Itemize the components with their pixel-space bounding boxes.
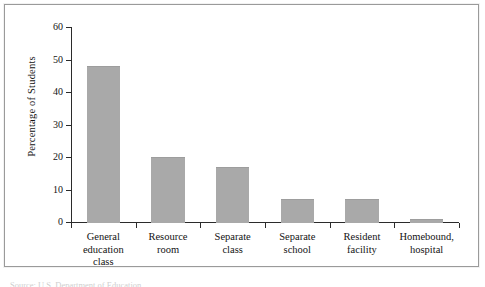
x-axis-category-label-line: facility <box>326 244 399 257</box>
x-axis-tick <box>459 223 460 228</box>
bar <box>216 167 250 223</box>
y-axis-tick-label: 60 <box>35 21 63 32</box>
bar <box>281 199 315 223</box>
y-axis-tick-label: 10 <box>35 184 63 195</box>
x-axis-category-label: Separateschool <box>261 231 334 256</box>
bar-chart-plot-area: Percentage of Students 0102030405060 Gen… <box>5 5 478 266</box>
x-axis-category-label-line: Separate <box>261 231 334 244</box>
x-axis-tick <box>200 223 201 228</box>
y-axis-tick-label: 20 <box>35 151 63 162</box>
x-axis-category-label-line: Resource <box>132 231 205 244</box>
x-axis-category-label-line: school <box>261 244 334 257</box>
bar <box>151 157 185 223</box>
x-axis-tick <box>71 223 72 228</box>
y-axis-tick <box>66 125 72 126</box>
x-axis-category-label-line: Homebound, <box>390 231 463 244</box>
x-axis-tick <box>330 223 331 228</box>
x-axis-tick <box>394 223 395 228</box>
x-axis-category-label-line: class <box>67 256 140 269</box>
y-axis-tick <box>66 157 72 158</box>
figure-frame: Percentage of Students 0102030405060 Gen… <box>4 4 479 267</box>
x-axis-tick <box>136 223 137 228</box>
x-axis-category-label: Residentfacility <box>326 231 399 256</box>
x-axis-category-label-line: Resident <box>326 231 399 244</box>
y-axis-tick <box>66 60 72 61</box>
y-axis-tick <box>66 190 72 191</box>
x-axis-category-label-line: education <box>67 244 140 257</box>
x-axis-category-label-line: General <box>67 231 140 244</box>
y-axis-tick-label: 40 <box>35 86 63 97</box>
x-axis-category-label-line: class <box>196 244 269 257</box>
y-axis-tick <box>66 92 72 93</box>
bar <box>345 199 379 223</box>
x-axis-category-label-line: Separate <box>196 231 269 244</box>
x-axis-tick <box>265 223 266 228</box>
x-axis-category-label-line: room <box>132 244 205 257</box>
x-axis-category-label-line: hospital <box>390 244 463 257</box>
y-axis-tick-label: 50 <box>35 54 63 65</box>
y-axis-tick <box>66 27 72 28</box>
x-axis-category-label: Generaleducationclass <box>67 231 140 269</box>
y-axis-tick-label: 30 <box>35 119 63 130</box>
bar <box>410 219 444 223</box>
source-caption: Source: U.S. Department of Education <box>10 280 450 287</box>
x-axis-category-label: Resourceroom <box>132 231 205 256</box>
x-axis-category-label: Separateclass <box>196 231 269 256</box>
y-axis-tick-label: 0 <box>35 216 63 227</box>
x-axis-category-label: Homebound,hospital <box>390 231 463 256</box>
bar <box>87 66 121 223</box>
